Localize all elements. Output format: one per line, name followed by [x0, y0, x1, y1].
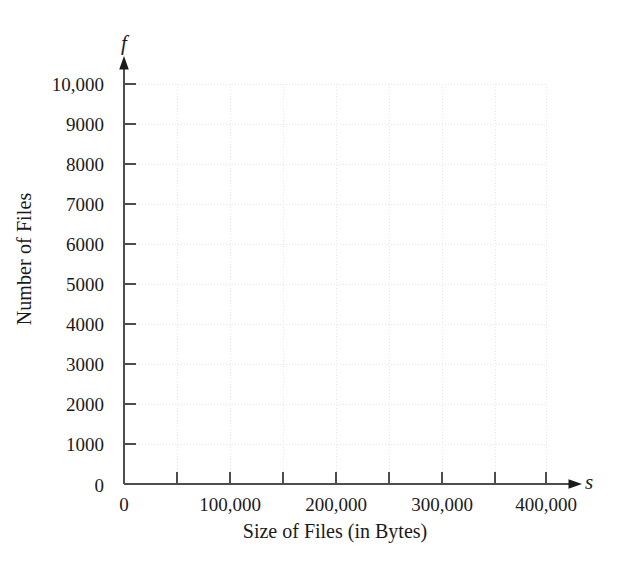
- x-axis-line: [124, 479, 582, 489]
- y-axis-variable-label: f: [121, 33, 127, 54]
- y-axis-ticks: [124, 84, 136, 444]
- x-tick-label: 400,000: [476, 495, 616, 514]
- chart-figure: 10,000 9000 8000 7000 6000 5000 4000 300…: [0, 0, 620, 562]
- y-axis-title: Number of Files: [10, 39, 38, 479]
- x-axis-title: Size of Files (in Bytes): [120, 518, 550, 544]
- y-axis-line: [119, 56, 129, 484]
- x-axis-variable-label: s: [585, 472, 593, 493]
- x-axis-ticks: [177, 472, 546, 484]
- grid-horizontal: [124, 84, 546, 444]
